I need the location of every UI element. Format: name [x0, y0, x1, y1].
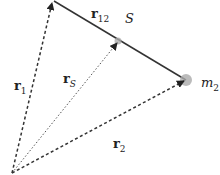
label-m2: m2: [201, 76, 219, 93]
m2-dot: [180, 74, 192, 86]
vector-diagram: [0, 0, 220, 175]
label-s: S: [125, 12, 134, 25]
label-r1: r1: [14, 79, 27, 96]
label-rs: rS: [63, 72, 76, 89]
s-dot: [115, 38, 122, 45]
r2-vector: [12, 81, 184, 173]
label-r12: r12: [91, 7, 109, 24]
label-r2: r2: [113, 137, 126, 154]
diagram-canvas: r12 S r1 rS r2 m2: [0, 0, 220, 175]
